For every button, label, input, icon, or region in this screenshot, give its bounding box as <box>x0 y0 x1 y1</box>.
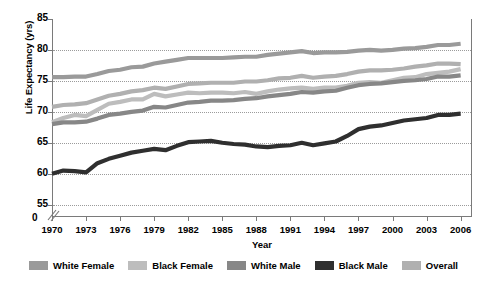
x-axis-tick-mark <box>290 217 291 221</box>
y-axis-tick-label: 60 <box>4 167 48 178</box>
x-axis-tick-mark <box>154 217 155 221</box>
y-axis-tick-label: 75 <box>4 74 48 85</box>
x-axis-tick-mark <box>358 217 359 221</box>
legend-item-white-female[interactable]: White Female <box>29 260 114 271</box>
y-axis-tick-label: 55 <box>4 198 48 209</box>
x-axis-tick-mark <box>427 217 428 221</box>
x-axis-tick-mark <box>52 217 53 221</box>
legend-item-label: Black Female <box>152 260 213 271</box>
legend-item-label: White Male <box>251 260 301 271</box>
series-line-black-male <box>52 114 461 174</box>
legend-item-label: Black Male <box>339 260 388 271</box>
x-axis-tick-mark <box>188 217 189 221</box>
series-layer <box>52 19 472 217</box>
x-axis-tick-mark <box>461 217 462 221</box>
y-axis-tick-label: 70 <box>4 105 48 116</box>
legend-item-black-female[interactable]: Black Female <box>128 260 213 271</box>
x-axis-tick-mark <box>324 217 325 221</box>
legend-swatch-black-female <box>128 261 147 270</box>
y-axis-tick-label: 80 <box>4 43 48 54</box>
legend-swatch-overall <box>402 261 421 270</box>
legend-item-label: Overall <box>426 260 458 271</box>
legend-item-label: White Female <box>53 260 114 271</box>
legend-swatch-white-male <box>227 261 246 270</box>
x-axis-tick-mark <box>393 217 394 221</box>
x-axis-tick-mark <box>120 217 121 221</box>
x-axis-title: Year <box>52 239 472 250</box>
legend-swatch-white-female <box>29 261 48 270</box>
legend-swatch-black-male <box>315 261 334 270</box>
x-axis-tick-mark <box>256 217 257 221</box>
chart-legend: White FemaleBlack FemaleWhite MaleBlack … <box>0 260 487 271</box>
y-axis-break-icon <box>45 208 61 224</box>
legend-item-white-male[interactable]: White Male <box>227 260 301 271</box>
y-axis-tick-label: 85 <box>4 12 48 23</box>
legend-item-black-male[interactable]: Black Male <box>315 260 388 271</box>
legend-item-overall[interactable]: Overall <box>402 260 458 271</box>
life-expectancy-line-chart: Life Expectancy (yrs) 55606570758085 0 1… <box>0 0 487 282</box>
y-axis-origin-label: 0 <box>32 212 38 223</box>
x-axis-tick-mark <box>86 217 87 221</box>
x-axis-tick-mark <box>222 217 223 221</box>
y-axis-tick-label: 65 <box>4 136 48 147</box>
series-line-white-female <box>52 44 461 77</box>
x-axis-tick-label: 2006 <box>441 224 481 235</box>
